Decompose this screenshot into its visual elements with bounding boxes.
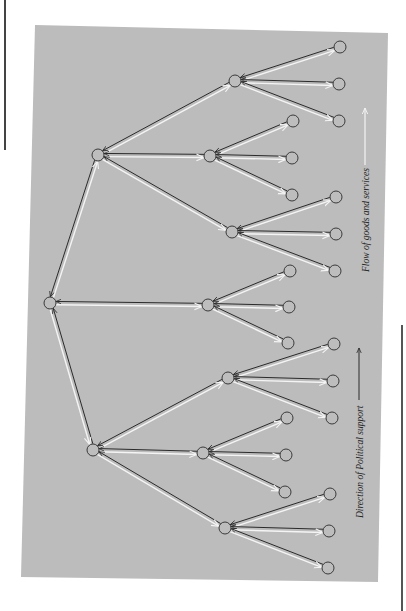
leaf-node	[328, 338, 340, 350]
goods-flow-edge	[104, 157, 204, 158]
leaf-node	[286, 189, 298, 201]
branch-node	[197, 447, 209, 459]
leaf-node	[287, 115, 299, 127]
branch-node	[92, 149, 104, 161]
goods-flow-label: Flow of goods and services	[361, 168, 371, 273]
branch-node	[226, 226, 238, 238]
leaf-node	[282, 337, 294, 349]
leaf-node	[279, 486, 291, 498]
leaf-node	[280, 449, 292, 461]
political-support-label: Direction of Political support	[355, 405, 365, 519]
branch-node	[87, 444, 99, 456]
hierarchy-diagram: Flow of goods and services Direction of …	[0, 0, 406, 611]
branch-node	[219, 522, 231, 534]
leaf-node	[281, 412, 293, 424]
leaf-node	[326, 412, 338, 424]
leaf-node	[333, 115, 345, 127]
branch-node	[229, 75, 241, 87]
leaf-node	[286, 152, 298, 164]
leaf-node	[284, 265, 296, 277]
leaf-node	[322, 562, 334, 574]
branch-node	[222, 372, 234, 384]
branch-node	[202, 299, 214, 311]
leaf-node	[323, 525, 335, 537]
leaf-node	[324, 488, 336, 500]
leaf-node	[283, 301, 295, 313]
leaf-node	[327, 375, 339, 387]
leaf-node	[330, 191, 342, 203]
leaf-node	[334, 41, 346, 53]
leaf-node	[333, 78, 345, 90]
leaf-node	[330, 228, 342, 240]
root-node	[44, 297, 56, 309]
branch-node	[204, 150, 216, 162]
leaf-node	[329, 265, 341, 277]
